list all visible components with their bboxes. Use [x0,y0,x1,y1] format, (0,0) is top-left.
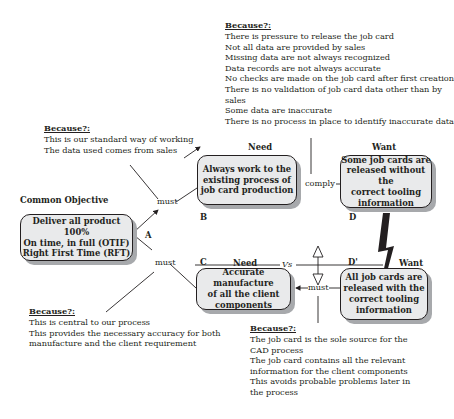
because-cd-block: Because?: The job card is the sole sourc… [250,323,410,398]
want-d-heading: Want [372,142,396,152]
must-ab-label: must [157,196,178,206]
because-bd-line: sales [225,95,454,106]
want-d-prime-line: released with the [343,283,424,294]
objective-line: Right First Time (RFT) [21,248,132,259]
because-cd-line: The job card contains all the relevant [250,355,410,366]
letter-c: C [200,257,207,267]
because-cd-line: the process [250,387,410,398]
need-b-line: job card production [201,185,294,196]
because-ab-line: The data used comes from sales [44,145,193,156]
because-bd-heading: Because?: [225,20,454,31]
letter-b: B [200,212,207,222]
need-b-line: existing process of [201,175,294,186]
need-c-box: Accurate manufacture of all the client c… [196,268,291,310]
letter-a: A [145,230,152,240]
comply-label: comply [305,178,335,188]
want-d-line: Some job cards are [341,155,431,166]
because-ac-line: This is central to our process [29,317,221,328]
want-d-line: information [341,198,431,209]
because-ab-heading: Because?: [44,123,193,134]
because-cd-line: This avoids probable problems later in [250,376,410,387]
because-ab-line: This is our standard way of working [44,134,193,145]
want-d-line: released without the [341,165,431,187]
because-ac-line: manufacture and the client requirement [29,338,221,349]
objective-heading: Common Objective [20,195,108,205]
because-ab-block: Because?: This is our standard way of wo… [44,123,193,155]
because-bd-line: Some data are inaccurate [225,105,454,116]
because-cd-line: CAD process [250,345,410,356]
because-ac-block: Because?: This is central to our process… [29,306,221,349]
objective-line: On time, in full (OTIF) [21,238,132,249]
objective-box: Deliver all product 100% On time, in ful… [20,214,133,261]
want-d-line: correct tooling [341,187,431,198]
because-bd-line: No checks are made on the job card after… [225,73,454,84]
letter-d-prime: D' [348,257,358,267]
need-c-line: Accurate manufacture [197,267,290,289]
because-bd-line: There is no validation of job card data … [225,84,454,95]
because-bd-line: Not all data are provided by sales [225,42,454,53]
must-cd-label: must [308,282,329,292]
need-c-line: of all the client [197,289,290,300]
because-bd-line: There is no process in place to identify… [225,116,454,127]
want-d-prime-heading: Want [399,258,423,268]
letter-d: D [349,212,356,222]
need-b-box: Always work to the existing process of j… [197,155,297,205]
because-ac-line: This provides the necessary accuracy for… [29,328,221,339]
want-d-prime-line: information [343,305,424,316]
want-d-prime-box: All job cards are released with the corr… [340,268,428,320]
because-bd-block: Because?: There is pressure to release t… [225,20,454,126]
need-b-heading: Need [248,142,272,152]
because-cd-heading: Because?: [250,323,410,334]
want-d-box: Some job cards are released without the … [340,155,432,208]
because-cd-line: The job card is the sole source for the [250,334,410,345]
because-cd-line: information for the client components [250,366,410,377]
need-b-line: Always work to the [201,164,294,175]
because-bd-line: There is pressure to release the job car… [225,31,454,42]
want-d-prime-line: correct tooling [343,294,424,305]
want-d-prime-line: All job cards are [343,272,424,283]
because-ac-heading: Because?: [29,306,221,317]
because-bd-line: Missing data are not always recognized [225,52,454,63]
because-bd-line: Data records are not always accurate [225,63,454,74]
must-ac-label: must [155,257,176,267]
objective-line: Deliver all product 100% [21,216,132,238]
